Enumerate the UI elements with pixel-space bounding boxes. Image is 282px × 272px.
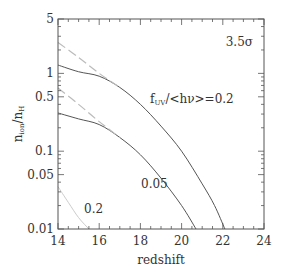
plot-area — [58, 42, 225, 229]
svg-text:nion/nH: nion/nH — [11, 106, 26, 143]
y-tick-label: 0.01 — [27, 222, 54, 236]
x-tick-label: 24 — [256, 234, 272, 248]
chart: 1416182022240.010.050.10.515 redshift ni… — [0, 0, 282, 272]
series-line — [58, 42, 120, 87]
y-axis-label: nion/nH — [11, 106, 26, 143]
x-tick-label: 20 — [174, 234, 189, 248]
label-005: 0.05 — [141, 177, 168, 191]
svg-text:fUV/<hν>=0.2: fUV/<hν>=0.2 — [150, 92, 234, 107]
x-tick-label: 22 — [215, 234, 230, 248]
y-tick-label: 5 — [46, 12, 54, 26]
y-tick-label: 0.1 — [35, 144, 54, 158]
label-02: 0.2 — [84, 202, 103, 216]
plot-frame — [58, 19, 264, 229]
x-tick-label: 14 — [50, 234, 66, 248]
x-tick-label: 18 — [133, 234, 148, 248]
y-tick-label: 1 — [46, 66, 54, 80]
series-line — [58, 113, 196, 229]
x-tick-label: 16 — [92, 234, 107, 248]
y-tick-label: 0.5 — [35, 90, 54, 104]
y-tick-label: 0.05 — [27, 168, 54, 182]
x-axis-label: redshift — [137, 253, 185, 267]
sigma-annotation: 3.5σ — [226, 35, 253, 49]
param-annotation: fUV/<hν>=0.2 — [150, 92, 234, 107]
series-line — [58, 88, 120, 138]
